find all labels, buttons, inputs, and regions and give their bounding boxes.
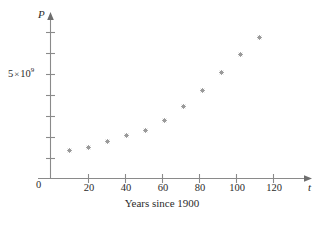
x-tick-label: 100 — [224, 183, 250, 194]
data-point — [181, 104, 186, 109]
x-axis-caption: Years since 1900 — [0, 198, 324, 209]
x-tick-label: 20 — [78, 183, 100, 194]
y-tick-label-5e9: 5×109 — [8, 67, 34, 79]
x-axis-label: t — [308, 182, 311, 193]
x-tick-label: 120 — [261, 183, 287, 194]
data-point — [143, 128, 148, 133]
data-point — [200, 88, 205, 93]
plot-canvas — [0, 0, 324, 229]
data-point — [124, 133, 129, 138]
x-tick-label: 80 — [189, 183, 211, 194]
data-point — [86, 145, 91, 150]
population-scatter-figure: P t 0 5×109 20 40 60 80 100 120 Years si… — [0, 0, 324, 229]
data-point-series — [67, 35, 262, 153]
x-tick-label: 40 — [115, 183, 137, 194]
y-tick-exponent: 9 — [31, 66, 35, 74]
y-axis-arrowhead — [47, 12, 54, 20]
y-axis-label: P — [38, 9, 45, 20]
data-point — [257, 35, 262, 40]
y-tick-base: 10 — [20, 68, 31, 79]
data-point — [162, 118, 167, 123]
data-point — [219, 70, 224, 75]
x-tick-label: 60 — [152, 183, 174, 194]
origin-label: 0 — [36, 180, 41, 191]
data-point — [67, 148, 72, 153]
data-point — [105, 139, 110, 144]
data-point — [238, 52, 243, 57]
